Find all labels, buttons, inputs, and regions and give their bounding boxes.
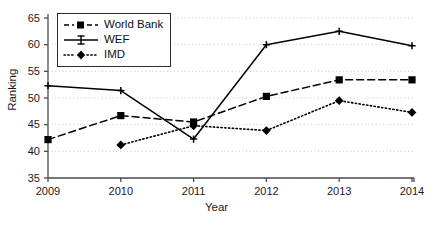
data-point-world-bank: [336, 76, 343, 83]
legend-label: World Bank: [104, 19, 163, 31]
legend-item-imd: IMD: [63, 47, 163, 62]
data-point-world-bank: [117, 112, 124, 119]
x-tick-label-2010: 2010: [98, 186, 144, 197]
legend-label: IMD: [104, 49, 125, 61]
y-tick-label-35: 35: [14, 173, 40, 184]
x-tick-label-2011: 2011: [171, 186, 217, 197]
legend-item-wef: WEF: [63, 32, 163, 47]
legend-swatch-diamond-dotted: [63, 48, 99, 62]
x-tick-label-2013: 2013: [316, 186, 362, 197]
x-tick-label-2009: 2009: [25, 186, 71, 197]
x-axis-title: Year: [0, 202, 433, 214]
series-line-imd: [121, 101, 412, 145]
y-tick-label-65: 65: [14, 13, 40, 24]
data-point-world-bank: [408, 76, 415, 83]
data-point-imd: [116, 141, 125, 150]
y-tick-label-60: 60: [14, 39, 40, 50]
legend-swatch-plus-solid: [63, 33, 99, 47]
data-point-wef: [44, 82, 51, 89]
y-axis-title: Ranking: [7, 55, 19, 125]
data-point-wef: [408, 42, 415, 49]
data-point-wef: [336, 28, 343, 35]
data-point-world-bank: [44, 136, 51, 143]
x-tick-label-2012: 2012: [243, 186, 289, 197]
legend: World Bank WEF IMD: [57, 13, 171, 67]
legend-swatch-square-dashed: [63, 18, 99, 32]
ranking-line-chart: 65605550454035 200920102011201220132014 …: [0, 0, 433, 225]
legend-item-world-bank: World Bank: [63, 17, 163, 32]
legend-label: WEF: [104, 34, 130, 46]
x-tick-label-2014: 2014: [389, 186, 433, 197]
data-point-imd: [262, 126, 271, 135]
y-tick-label-40: 40: [14, 146, 40, 157]
data-point-imd: [408, 108, 417, 117]
data-point-world-bank: [263, 93, 270, 100]
